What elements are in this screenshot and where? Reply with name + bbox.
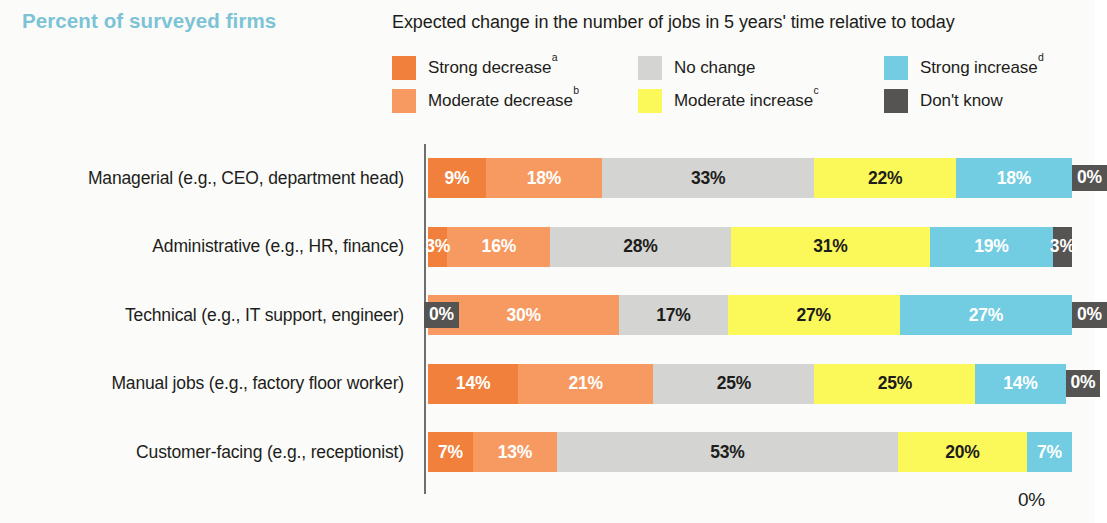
category-label: Customer-facing (e.g., receptionist) [136,432,404,472]
bar-value-label: 14% [456,373,490,394]
bar-value-label: 27% [969,305,1003,326]
legend-footnote-marker: d [1038,51,1044,63]
bar-segment: 27% [900,295,1072,335]
category-label: Administrative (e.g., HR, finance) [152,227,404,267]
bar-segment: 13% [473,432,557,472]
legend: Strong decreaseaModerate decreasebNo cha… [392,56,1092,118]
legend-footnote-marker: a [552,51,558,63]
bar-segment: 14% [428,364,518,404]
bar-value-label: 7% [1037,442,1062,463]
legend-label: Moderate increasec [674,91,818,111]
legend-item[interactable]: No change [638,56,755,80]
bar-segment: 21% [518,364,653,404]
bar-segment: 18% [486,158,602,198]
bar-value-label: 33% [691,168,725,189]
bar-value-label: 3% [425,236,450,257]
bar-segment: 31% [731,227,931,267]
bar-value-label: 0% [424,302,459,329]
bar-value-label: 25% [717,373,751,394]
bar-value-label: 53% [710,442,744,463]
bar-segment: 20% [898,432,1027,472]
bar-segment: 19% [930,227,1052,267]
bar-segment: 3% [1053,227,1072,267]
bar-segment: 17% [619,295,727,335]
bar-value-label: 22% [868,168,902,189]
bar-value-label: 0% [1072,165,1107,192]
bar-segment: 53% [557,432,898,472]
bar-value-label: 28% [623,236,657,257]
legend-item[interactable]: Strong increased [884,56,1043,80]
legend-swatch-icon [638,89,662,113]
legend-swatch-icon [638,56,662,80]
x-axis-zero-label: 0% [1018,489,1045,511]
bar-value-label: 16% [482,236,516,257]
table-row: 3%16%28%31%19%3% [428,227,1072,267]
table-row: 0%30%17%27%27%0% [428,295,1072,335]
legend-footnote-marker: c [814,84,819,96]
bar-value-label: 14% [1003,373,1037,394]
category-label: Manual jobs (e.g., factory floor worker) [111,364,404,404]
legend-title: Expected change in the number of jobs in… [392,12,955,33]
legend-item[interactable]: Moderate increasec [638,89,818,113]
category-label-column: Managerial (e.g., CEO, department head)A… [0,144,404,494]
legend-label: Strong decreasea [428,58,557,78]
legend-item[interactable]: Don't know [884,89,1003,113]
bar-value-label: 27% [797,305,831,326]
legend-label: No change [674,58,755,78]
bar-segment: 27% [728,295,900,335]
category-label: Managerial (e.g., CEO, department head) [88,158,404,198]
table-row: 9%18%33%22%18%0% [428,158,1072,198]
table-row: 14%21%25%25%14%0% [428,364,1072,404]
bar-value-label: 18% [997,168,1031,189]
table-row: 7%13%53%20%7% [428,432,1072,472]
legend-item[interactable]: Strong decreasea [392,56,557,80]
bar-value-label: 7% [438,442,463,463]
bar-segment: 14% [975,364,1065,404]
bar-segment: 25% [653,364,814,404]
bar-value-label: 3% [1050,236,1075,257]
legend-label: Don't know [920,91,1003,111]
stacked-bar-chart: 9%18%33%22%18%0%3%16%28%31%19%3%0%30%17%… [424,144,1072,494]
legend-label: Moderate decreaseb [428,91,579,111]
legend-swatch-icon [884,89,908,113]
legend-label: Strong increased [920,58,1043,78]
legend-swatch-icon [392,89,416,113]
bar-segment: 7% [1027,432,1072,472]
bar-segment: 16% [447,227,550,267]
bar-segment: 25% [814,364,975,404]
bar-segment: 9% [428,158,486,198]
bar-value-label: 0% [1072,302,1107,329]
bar-value-label: 13% [498,442,532,463]
category-label: Technical (e.g., IT support, engineer) [125,295,404,335]
legend-swatch-icon [392,56,416,80]
bar-value-label: 9% [445,168,470,189]
bar-value-label: 0% [1066,370,1101,397]
bar-value-label: 19% [974,236,1008,257]
legend-swatch-icon [884,56,908,80]
bar-segment: 28% [550,227,730,267]
bar-value-label: 18% [527,168,561,189]
bar-value-label: 20% [945,442,979,463]
bar-value-label: 31% [813,236,847,257]
bar-segment: 7% [428,432,473,472]
bar-segment: 18% [956,158,1072,198]
bar-value-label: 30% [506,305,540,326]
bar-segment: 3% [428,227,447,267]
bar-value-label: 21% [569,373,603,394]
legend-footnote-marker: b [573,84,579,96]
bar-value-label: 25% [878,373,912,394]
bar-segment: 22% [814,158,956,198]
bar-value-label: 17% [656,305,690,326]
page-title: Percent of surveyed firms [22,9,276,33]
bar-segment: 33% [602,158,815,198]
legend-item[interactable]: Moderate decreaseb [392,89,579,113]
